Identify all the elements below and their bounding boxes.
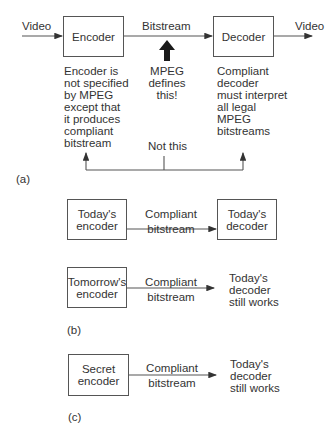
encoder-note-line: except that bbox=[64, 101, 129, 113]
decoder-box-label: Decoder bbox=[222, 31, 265, 43]
box-line: encoder bbox=[76, 220, 118, 232]
decoder-note-line: Compliant bbox=[217, 65, 287, 77]
box-line: encoder bbox=[68, 288, 126, 300]
mpeg-defines-arrow-icon bbox=[159, 40, 175, 61]
link-line: bitstream bbox=[136, 291, 206, 303]
result-line: still works bbox=[229, 296, 279, 308]
not-this-label: Not this bbox=[148, 140, 187, 152]
video-output-label: Video bbox=[295, 20, 324, 32]
encoder-note-line: bitstream bbox=[64, 137, 129, 149]
link-line: Compliant bbox=[137, 362, 207, 374]
secret-encoder-box: Secretencoder bbox=[68, 354, 129, 396]
decoder-note-line: bitstreams bbox=[217, 125, 287, 137]
link-line: Compliant bbox=[136, 276, 206, 288]
panel-a-label: (a) bbox=[16, 173, 30, 185]
compliant-bitstream-label-c: Compliant bitstream bbox=[137, 362, 207, 389]
box-line: encoder bbox=[78, 375, 120, 387]
tomorrows-encoder-box: Tomorrow'sencoder bbox=[67, 267, 127, 308]
result-line: still works bbox=[230, 382, 280, 394]
result-line: Today's bbox=[229, 272, 279, 284]
box-line: decoder bbox=[226, 220, 268, 232]
box-line: Secret bbox=[78, 363, 120, 375]
panel-c-label: (c) bbox=[68, 411, 81, 423]
mpeg-note-line: this! bbox=[142, 89, 192, 101]
encoder-box-label: Encoder bbox=[72, 31, 115, 43]
encoder-note: Encoder is not specified by MPEG except … bbox=[64, 65, 129, 149]
result-line: decoder bbox=[229, 284, 279, 296]
decoder-note: Compliant decoder must interpret all leg… bbox=[217, 65, 287, 137]
todays-encoder-box: Today'sencoder bbox=[67, 199, 127, 240]
encoder-note-line: Encoder is bbox=[64, 65, 129, 77]
encoder-note-line: compliant bbox=[64, 125, 129, 137]
panel-b-label: (b) bbox=[67, 324, 81, 336]
result-line: decoder bbox=[230, 370, 280, 382]
encoder-box: Encoder bbox=[63, 16, 124, 57]
decoder-note-line: MPEG bbox=[217, 113, 287, 125]
link-line: bitstream bbox=[137, 377, 207, 389]
encoder-note-line: it produces bbox=[64, 113, 129, 125]
bitstream-label: Bitstream bbox=[142, 20, 191, 32]
mpeg-note-line: defines bbox=[142, 77, 192, 89]
decoder-box: Decoder bbox=[213, 16, 274, 57]
box-line: Tomorrow's bbox=[68, 276, 126, 288]
mpeg-note-line: MPEG bbox=[142, 65, 192, 77]
link-line: Compliant bbox=[136, 208, 206, 220]
todays-decoder-box: Today'sdecoder bbox=[217, 199, 277, 240]
compliant-bitstream-label-b1: Compliant bitstream bbox=[136, 208, 206, 235]
decoder-still-works-b: Today's decoder still works bbox=[229, 272, 279, 308]
link-line: bitstream bbox=[136, 223, 206, 235]
decoder-still-works-c: Today's decoder still works bbox=[230, 358, 280, 394]
video-input-label: Video bbox=[22, 20, 51, 32]
decoder-note-line: decoder bbox=[217, 77, 287, 89]
box-line: Today's bbox=[76, 208, 118, 220]
encoder-note-line: by MPEG bbox=[64, 89, 129, 101]
decoder-note-line: must interpret bbox=[217, 89, 287, 101]
mpeg-note: MPEG defines this! bbox=[142, 65, 192, 101]
compliant-bitstream-label-b2: Compliant bitstream bbox=[136, 276, 206, 303]
result-line: Today's bbox=[230, 358, 280, 370]
decoder-note-line: all legal bbox=[217, 101, 287, 113]
box-line: Today's bbox=[226, 208, 268, 220]
encoder-note-line: not specified bbox=[64, 77, 129, 89]
